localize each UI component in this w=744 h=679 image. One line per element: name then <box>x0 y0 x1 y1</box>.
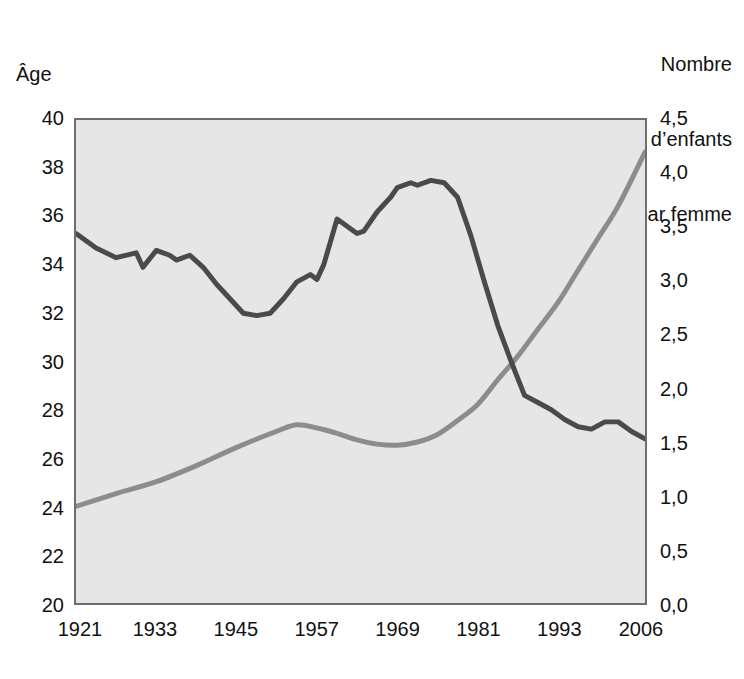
left-tick-label: 28 <box>18 400 64 420</box>
x-tick-label: 1921 <box>58 617 103 641</box>
right-tick-label: 3,5 <box>660 216 720 236</box>
x-tick-label: 1933 <box>133 617 178 641</box>
left-axis-ticks: 2022242628303234363840 <box>16 118 64 605</box>
left-tick-label: 20 <box>18 595 64 615</box>
plot-area <box>74 118 647 605</box>
chart-figure: Âge Nombre d’enfants par femme 202224262… <box>0 0 744 679</box>
left-tick-label: 26 <box>18 449 64 469</box>
right-tick-label: 4,0 <box>660 162 720 182</box>
right-tick-label: 1,0 <box>660 487 720 507</box>
left-tick-label: 22 <box>18 546 64 566</box>
left-tick-label: 32 <box>18 303 64 323</box>
right-axis-ticks: 0,00,51,01,52,02,53,03,54,04,5 <box>660 118 720 605</box>
right-tick-label: 2,0 <box>660 379 720 399</box>
right-tick-label: 2,5 <box>660 324 720 344</box>
left-tick-label: 24 <box>18 498 64 518</box>
right-tick-label: 1,5 <box>660 433 720 453</box>
right-axis-title-line-1: Nombre <box>636 52 732 77</box>
x-tick-label: 1969 <box>375 617 420 641</box>
left-tick-label: 34 <box>18 254 64 274</box>
x-tick-label: 1981 <box>456 617 501 641</box>
plot-canvas <box>76 120 645 603</box>
left-axis-title: Âge <box>16 62 52 87</box>
x-axis-ticks: 19211933194519571969198119932006 <box>74 617 647 647</box>
right-tick-label: 4,5 <box>660 108 720 128</box>
age-line <box>76 180 645 438</box>
right-tick-label: 0,5 <box>660 541 720 561</box>
x-tick-label: 1957 <box>294 617 339 641</box>
fertility-line <box>76 152 645 506</box>
left-tick-label: 30 <box>18 352 64 372</box>
x-tick-label: 2006 <box>619 617 664 641</box>
left-tick-label: 40 <box>18 108 64 128</box>
right-tick-label: 0,0 <box>660 595 720 615</box>
x-tick-label: 1993 <box>537 617 582 641</box>
x-tick-label: 1945 <box>214 617 259 641</box>
left-tick-label: 36 <box>18 205 64 225</box>
right-tick-label: 3,0 <box>660 270 720 290</box>
left-tick-label: 38 <box>18 157 64 177</box>
